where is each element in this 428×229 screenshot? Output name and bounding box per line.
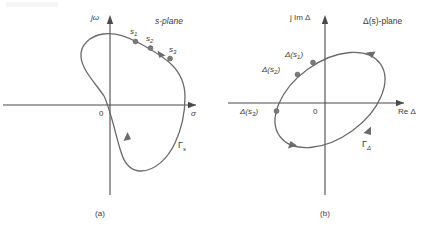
scan-artifact [6, 2, 58, 7]
panel-b-direction-arrow-bottom [288, 141, 297, 149]
panel-b-label-ds3-tail: ) [254, 107, 258, 116]
panel-b-contour-ellipse [258, 33, 403, 167]
panel-b-label-ds1-tail: ) [299, 50, 303, 59]
panel-b-plane-title: Δ(s)-plane [363, 16, 402, 26]
panel-a-contour-path [81, 34, 185, 171]
panel-a-sigma-axis [3, 102, 196, 108]
panel-b-im-axis [322, 15, 328, 195]
panel-a-contour-label-sub: s [183, 146, 186, 152]
panel-b-label-ds3-base: Δ(s [239, 107, 252, 116]
panel-a-contour-label: Γs [178, 140, 186, 152]
panel-b-label-ds2-base: Δ(s [261, 65, 274, 74]
panel-a-label-s2: s2 [146, 34, 154, 44]
panel-a-direction-arrow-top [158, 51, 166, 58]
panel-a-label-s2-sub: 2 [149, 38, 154, 44]
panel-a-xaxis-label: σ [191, 109, 197, 118]
panel-b-group: j Im Δ Re Δ 0 Δ(s)-plane Δ(s1) Δ(s2) Δ(s… [228, 13, 416, 218]
panel-a-label-s3: s3 [169, 45, 177, 55]
panel-a-label-s1-sub: 1 [134, 31, 137, 37]
panel-a-direction-arrow-bottom [124, 132, 132, 141]
panel-a-caption: (a) [95, 209, 105, 218]
panel-b-yaxis-label: j Im Δ [289, 13, 311, 22]
panel-b-label-ds2: Δ(s2) [261, 65, 280, 75]
panel-b-point-ds1 [311, 60, 316, 65]
panel-a-point-s2 [148, 46, 153, 51]
figure-container: jω σ 0 s-plane s1 s2 s3 Γs (a) [0, 0, 428, 229]
panel-b-contour-label: ΓΔ [362, 139, 371, 151]
panel-a-origin-label: 0 [99, 109, 104, 118]
panel-b-point-ds2 [295, 72, 300, 77]
panel-b-label-ds3: Δ(s3) [239, 107, 258, 117]
panel-a-yaxis-label: jω [90, 13, 99, 22]
panel-b-direction-arrow-right [364, 127, 372, 136]
panel-b-contour-label-sub: Δ [366, 145, 371, 151]
panel-a-label-s3-sub: 3 [173, 49, 177, 55]
panel-b-point-ds3 [274, 109, 279, 114]
panel-a-point-s1 [133, 39, 138, 44]
panel-b-label-ds2-tail: ) [276, 65, 280, 74]
panel-b-label-ds1-base: Δ(s [284, 50, 297, 59]
panel-b-xaxis-label: Re Δ [398, 107, 416, 116]
panel-a-plane-title: s-plane [155, 16, 183, 26]
panel-b-label-ds1: Δ(s1) [284, 50, 303, 60]
panel-b-origin-label: 0 [313, 107, 318, 116]
panel-b-caption: (b) [320, 209, 330, 218]
panel-a-plane-title-text: s-plane [155, 16, 183, 26]
figure-svg: jω σ 0 s-plane s1 s2 s3 Γs (a) [0, 0, 428, 229]
panel-a-point-s3 [168, 56, 173, 61]
panel-a-label-s1: s1 [130, 27, 137, 37]
panel-a-group: jω σ 0 s-plane s1 s2 s3 Γs (a) [3, 13, 197, 218]
